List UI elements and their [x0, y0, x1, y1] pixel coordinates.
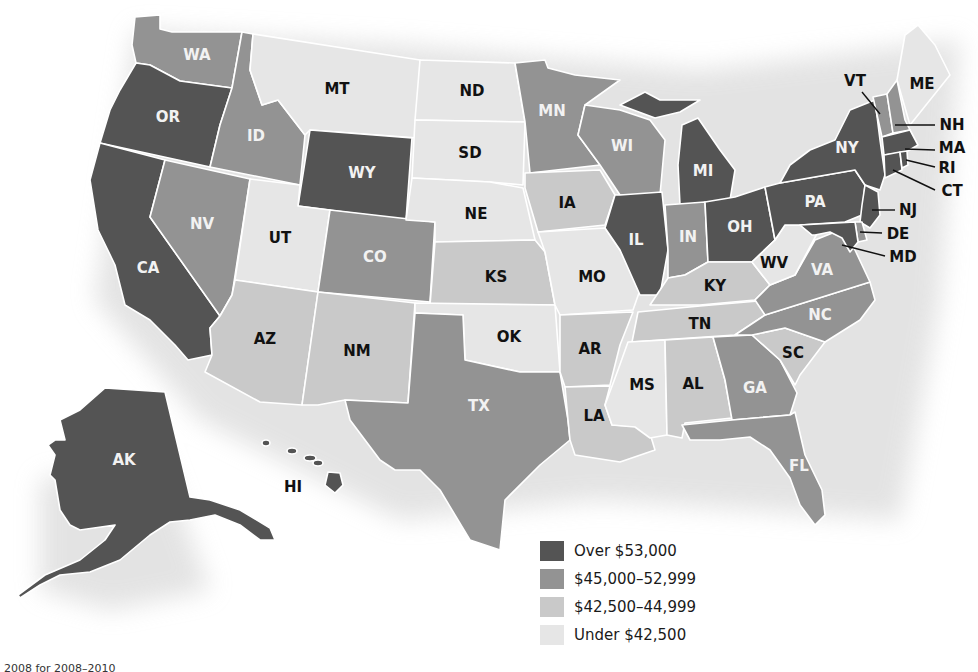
label-fl: FL	[789, 457, 809, 475]
label-oh: OH	[727, 218, 752, 236]
label-vt: VT	[844, 72, 867, 90]
legend-swatch	[540, 569, 564, 589]
label-va: VA	[811, 261, 834, 279]
label-ak: AK	[112, 451, 137, 469]
label-id: ID	[247, 127, 265, 145]
label-sd: SD	[458, 144, 481, 162]
label-ut: UT	[269, 229, 292, 247]
label-nd: ND	[459, 82, 484, 100]
label-co: CO	[363, 248, 387, 266]
legend-swatch	[540, 597, 564, 617]
label-de: DE	[887, 225, 910, 243]
label-wa: WA	[183, 46, 211, 64]
label-mt: MT	[324, 80, 350, 98]
label-la: LA	[583, 407, 605, 425]
label-me: ME	[909, 75, 934, 93]
legend-label: $42,500–44,999	[574, 598, 696, 616]
label-nh: NH	[939, 116, 964, 134]
legend-label: Over $53,000	[574, 542, 677, 560]
label-md: MD	[889, 248, 916, 266]
label-ga: GA	[743, 379, 767, 397]
legend: Over $53,000 $45,000–52,999 $42,500–44,9…	[540, 537, 696, 649]
label-ks: KS	[485, 268, 507, 286]
label-mn: MN	[538, 102, 565, 120]
label-tn: TN	[689, 315, 712, 333]
label-ms: MS	[629, 376, 655, 394]
label-ct: CT	[941, 182, 963, 200]
legend-item-over-53000: Over $53,000	[540, 537, 696, 565]
label-wy: WY	[348, 164, 377, 182]
label-nj: NJ	[899, 201, 917, 219]
label-wv: WV	[760, 254, 789, 272]
label-il: IL	[628, 231, 644, 249]
label-tx: TX	[468, 397, 490, 415]
label-ia: IA	[558, 194, 576, 212]
label-mo: MO	[578, 268, 606, 286]
label-mi: MI	[693, 162, 714, 180]
us-map: WA OR CA ID NV MT WY UT CO AZ NM ND SD N…	[0, 0, 978, 672]
source-footnote: 2008 for 2008–2010	[4, 662, 116, 672]
legend-swatch	[540, 541, 564, 561]
label-ma: MA	[939, 139, 966, 157]
label-nv: NV	[190, 215, 215, 233]
label-sc: SC	[782, 344, 804, 362]
label-ky: KY	[704, 277, 728, 295]
legend-label: $45,000–52,999	[574, 570, 696, 588]
legend-item-under-42500: Under $42,500	[540, 621, 696, 649]
label-ri: RI	[938, 159, 955, 177]
label-al: AL	[682, 375, 704, 393]
label-pa: PA	[804, 193, 826, 211]
legend-label: Under $42,500	[574, 626, 686, 644]
label-ne: NE	[465, 205, 488, 223]
label-or: OR	[156, 108, 181, 126]
label-nm: NM	[343, 342, 370, 360]
legend-item-45000-52999: $45,000–52,999	[540, 565, 696, 593]
label-az: AZ	[254, 330, 277, 348]
label-nc: NC	[808, 306, 832, 324]
label-ar: AR	[578, 340, 602, 358]
label-hi: HI	[284, 478, 302, 496]
label-ny: NY	[835, 139, 860, 157]
label-ca: CA	[137, 259, 160, 277]
label-ok: OK	[497, 328, 523, 346]
label-in: IN	[679, 228, 697, 246]
legend-swatch	[540, 625, 564, 645]
label-wi: WI	[611, 137, 633, 155]
legend-item-42500-44999: $42,500–44,999	[540, 593, 696, 621]
